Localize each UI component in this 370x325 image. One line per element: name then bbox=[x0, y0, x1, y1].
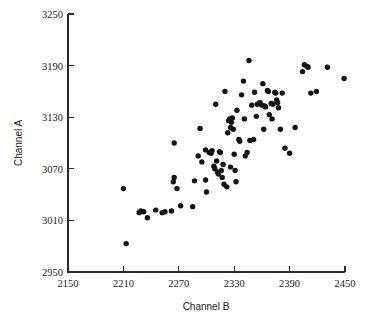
data-point bbox=[153, 207, 158, 212]
data-point bbox=[231, 127, 236, 132]
data-point bbox=[249, 102, 254, 107]
data-point bbox=[228, 164, 233, 169]
data-point bbox=[246, 58, 251, 63]
y-axis-tick-labels: 295030103070313031903250 bbox=[42, 9, 63, 278]
data-point bbox=[232, 151, 237, 156]
y-tick-label: 2950 bbox=[42, 267, 63, 278]
axes-group: 295030103070313031903250 215022102270233… bbox=[42, 9, 356, 289]
data-point bbox=[242, 116, 247, 121]
data-point bbox=[292, 125, 297, 130]
data-points-group bbox=[121, 58, 347, 247]
data-point bbox=[214, 158, 219, 163]
x-axis-tick-labels: 215022102270233023902450 bbox=[58, 278, 356, 289]
x-tick-label: 2450 bbox=[335, 278, 356, 289]
data-point bbox=[209, 148, 214, 153]
data-point bbox=[234, 108, 239, 113]
data-point bbox=[190, 204, 195, 209]
x-axis-ticks bbox=[68, 266, 345, 272]
y-tick-label: 3010 bbox=[42, 215, 63, 226]
data-point bbox=[325, 65, 330, 70]
data-point bbox=[273, 90, 278, 95]
data-point bbox=[305, 65, 310, 70]
data-point bbox=[254, 114, 259, 119]
data-point bbox=[195, 153, 200, 158]
y-axis-title: Channel A bbox=[13, 120, 24, 166]
y-tick-label: 3250 bbox=[42, 9, 63, 20]
data-point bbox=[278, 127, 283, 132]
data-point bbox=[162, 209, 167, 214]
x-tick-label: 2330 bbox=[224, 278, 245, 289]
y-tick-label: 3130 bbox=[42, 112, 63, 123]
data-point bbox=[220, 162, 225, 167]
data-point bbox=[241, 78, 246, 83]
data-point bbox=[203, 177, 208, 182]
data-point bbox=[123, 241, 128, 246]
y-tick-label: 3070 bbox=[42, 164, 63, 175]
y-axis-ticks bbox=[68, 14, 74, 272]
data-point bbox=[197, 126, 202, 131]
data-point bbox=[204, 189, 209, 194]
data-point bbox=[270, 102, 275, 107]
data-point bbox=[141, 209, 146, 214]
data-point bbox=[224, 184, 229, 189]
data-point bbox=[276, 105, 281, 110]
data-point bbox=[275, 100, 280, 105]
data-point bbox=[239, 92, 244, 97]
data-point bbox=[244, 150, 249, 155]
x-tick-label: 2210 bbox=[113, 278, 134, 289]
data-point bbox=[171, 175, 176, 180]
data-point bbox=[232, 168, 237, 173]
data-point bbox=[192, 178, 197, 183]
data-point bbox=[121, 186, 126, 191]
data-point bbox=[145, 215, 150, 220]
data-point bbox=[269, 116, 274, 121]
x-tick-label: 2270 bbox=[168, 278, 189, 289]
data-point bbox=[263, 104, 268, 109]
x-tick-label: 2390 bbox=[279, 278, 300, 289]
data-point bbox=[178, 203, 183, 208]
data-point bbox=[252, 90, 257, 95]
data-point bbox=[314, 89, 319, 94]
data-point bbox=[261, 127, 266, 132]
data-point bbox=[260, 81, 265, 86]
data-point bbox=[266, 89, 271, 94]
data-point bbox=[230, 115, 235, 120]
data-point bbox=[280, 90, 285, 95]
plot-canvas: 295030103070313031903250 215022102270233… bbox=[0, 0, 370, 325]
data-point bbox=[341, 76, 346, 81]
y-tick-label: 3190 bbox=[42, 61, 63, 72]
data-point bbox=[218, 150, 223, 155]
data-point bbox=[174, 186, 179, 191]
data-point bbox=[300, 69, 305, 74]
data-point bbox=[169, 208, 174, 213]
scatter-plot-figure: 295030103070313031903250 215022102270233… bbox=[0, 0, 370, 325]
data-point bbox=[171, 140, 176, 145]
data-point bbox=[199, 159, 204, 164]
data-point bbox=[287, 151, 292, 156]
x-tick-label: 2150 bbox=[58, 278, 79, 289]
data-point bbox=[219, 168, 224, 173]
axis-spine bbox=[68, 14, 345, 272]
data-point bbox=[220, 175, 225, 180]
data-point bbox=[251, 137, 256, 142]
x-axis-title: Channel B bbox=[183, 301, 230, 312]
data-point bbox=[237, 139, 242, 144]
data-point bbox=[282, 145, 287, 150]
data-point bbox=[213, 102, 218, 107]
data-point bbox=[225, 130, 230, 135]
data-point bbox=[222, 89, 227, 94]
data-point bbox=[233, 179, 238, 184]
data-point bbox=[308, 90, 313, 95]
